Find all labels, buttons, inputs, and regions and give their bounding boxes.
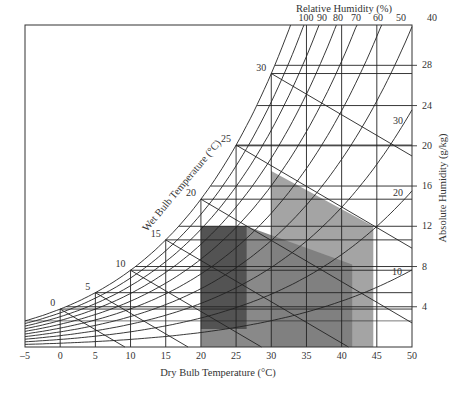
x-tick-label: 0: [58, 350, 63, 361]
wet-bulb-title: Wet Bulb Temperature (°C): [140, 137, 224, 234]
x-tick-label: 5: [93, 350, 98, 361]
y-axis-title: Absolute Humidity (g/kg): [437, 133, 449, 243]
rh-top-label: 50: [396, 12, 406, 23]
dark-zone: [201, 226, 247, 329]
x-tick-label: 25: [231, 350, 241, 361]
wet-bulb-label: 0: [50, 297, 55, 308]
rh-side-label: 10: [392, 266, 402, 277]
x-tick-label: 35: [301, 350, 311, 361]
x-tick-label: 40: [337, 350, 347, 361]
wet-bulb-label: 20: [186, 187, 196, 198]
y-tick-label: 4: [422, 301, 427, 312]
x-tick-label: 30: [266, 350, 276, 361]
y-tick-label: 24: [422, 100, 432, 111]
rh-curves: [25, 25, 412, 344]
x-tick-label: 15: [161, 350, 171, 361]
x-tick-label: 20: [196, 350, 206, 361]
x-tick-label: 45: [372, 350, 382, 361]
wet-bulb-label: 10: [116, 258, 126, 269]
wet-bulb-label: 30: [256, 62, 266, 73]
wet-bulb-label: 15: [151, 228, 161, 239]
psychrometric-chart: –505101520253035404550481216202428100908…: [0, 0, 462, 396]
rh-side-label: 20: [393, 187, 403, 198]
y-tick-label: 8: [422, 261, 427, 272]
y-tick-label: 16: [422, 180, 432, 191]
y-tick-label: 20: [422, 140, 432, 151]
x-axis-title: Dry Bulb Temperature (°C): [160, 367, 276, 379]
rh-top-label: 40: [427, 12, 437, 23]
wet-bulb-label: 25: [221, 133, 231, 144]
wet-bulb-label: 5: [85, 281, 90, 292]
y-tick-label: 12: [422, 220, 432, 231]
y-tick-label: 28: [422, 59, 432, 70]
top-axis-title: Relative Humidity (%): [296, 3, 393, 15]
rh-side-label: 30: [393, 115, 403, 126]
x-tick-label: 50: [407, 350, 417, 361]
x-tick-label: –5: [19, 350, 30, 361]
x-tick-label: 10: [126, 350, 136, 361]
